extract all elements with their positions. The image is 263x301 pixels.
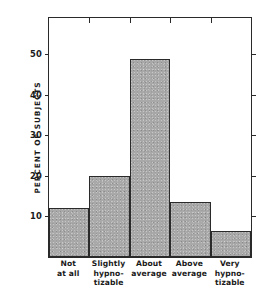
x-tick-label-line: Above (169, 259, 209, 269)
y-tick-label: 50 (30, 49, 42, 59)
bar (170, 202, 210, 257)
x-tick-label-line: tizable (210, 278, 250, 288)
y-tick-mark-right (251, 54, 256, 55)
y-tick-mark-right (251, 216, 256, 217)
x-tick-label-line: Slightly (88, 259, 128, 269)
x-tick-label-line: average (129, 269, 169, 279)
x-tick-mark-top (130, 18, 131, 23)
x-tick-label-line: About (129, 259, 169, 269)
x-tick-mark-top (89, 18, 90, 23)
y-tick-mark-right (251, 135, 256, 136)
plot-area: 1020304050 (48, 17, 252, 258)
x-tick-label: Aboveaverage (169, 259, 209, 278)
x-tick-label: Veryhypno-tizable (210, 259, 250, 288)
x-tick-mark-top (170, 18, 171, 23)
bar (130, 59, 170, 257)
y-tick-mark-left (45, 54, 50, 55)
y-tick-mark-left (45, 135, 50, 136)
x-tick-label: Slightlyhypno-tizable (88, 259, 128, 288)
y-tick-mark-right (251, 95, 256, 96)
y-tick-mark-left (45, 176, 50, 177)
x-tick-label-line: average (169, 269, 209, 279)
x-tick-label: Notat all (48, 259, 88, 278)
y-tick-mark-right (251, 176, 256, 177)
histogram-figure: PERCENT OF SUBJECTS 1020304050 Notat all… (0, 0, 263, 301)
x-tick-label-line: Not (48, 259, 88, 269)
x-tick-label-line: hypno- (88, 269, 128, 279)
y-tick-label: 20 (30, 171, 42, 181)
x-tick-mark-top (211, 18, 212, 23)
y-tick-label: 40 (30, 90, 42, 100)
y-tick-mark-left (45, 95, 50, 96)
x-axis-tick-labels: Notat allSlightlyhypno-tizableAboutavera… (48, 259, 250, 301)
x-tick-label-line: at all (48, 269, 88, 279)
y-tick-label: 10 (30, 211, 42, 221)
bar (211, 231, 251, 257)
bar (89, 176, 129, 257)
x-tick-label-line: tizable (88, 278, 128, 288)
x-tick-label: Aboutaverage (129, 259, 169, 278)
bar (49, 208, 89, 257)
y-tick-label: 30 (30, 130, 42, 140)
x-tick-label-line: Very (210, 259, 250, 269)
x-tick-label-line: hypno- (210, 269, 250, 279)
